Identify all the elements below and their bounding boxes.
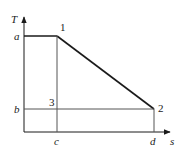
y-axis-label: T bbox=[11, 13, 18, 25]
point-label-3: 3 bbox=[49, 96, 55, 108]
ts-diagram: T s a b c d 1 2 3 bbox=[0, 0, 186, 156]
tick-label-d: d bbox=[150, 135, 156, 147]
tick-label-a: a bbox=[14, 30, 20, 42]
x-axis-label: s bbox=[170, 135, 174, 147]
tick-label-c: c bbox=[54, 135, 59, 147]
process-line-1-2 bbox=[57, 36, 154, 109]
point-label-1: 1 bbox=[60, 21, 66, 33]
tick-label-b: b bbox=[14, 103, 20, 115]
point-label-2: 2 bbox=[158, 102, 164, 114]
